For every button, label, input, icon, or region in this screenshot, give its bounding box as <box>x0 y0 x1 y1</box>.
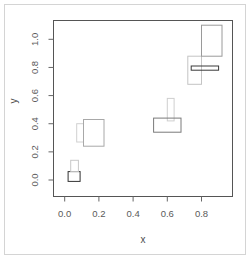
data-rect-0 <box>68 172 80 182</box>
y-tick-label: 0.8 <box>29 61 40 74</box>
y-tick-label: 0.2 <box>29 145 40 158</box>
x-tick-label: 0.0 <box>58 208 71 219</box>
y-axis-label: y <box>8 99 19 104</box>
data-rect-8 <box>202 25 223 56</box>
x-tick-label: 0.4 <box>126 208 139 219</box>
y-tick-label: 1.0 <box>29 33 40 46</box>
rect-plot: 0.00.20.40.60.8 0.00.20.40.60.81.0 x y <box>0 0 250 257</box>
data-rectangles <box>68 25 222 181</box>
y-axis: 0.00.20.40.60.81.0 <box>29 33 54 187</box>
x-tick-label: 0.8 <box>195 208 208 219</box>
y-tick-label: 0.6 <box>29 89 40 102</box>
x-tick-label: 0.6 <box>161 208 174 219</box>
x-axis: 0.00.20.40.60.8 <box>58 197 208 219</box>
data-rect-4 <box>167 98 174 121</box>
data-rect-1 <box>71 160 79 171</box>
x-axis-label: x <box>141 234 146 245</box>
data-rect-3 <box>84 120 105 147</box>
data-rect-7 <box>191 66 218 70</box>
data-rect-2 <box>77 124 84 142</box>
plot-area-border <box>54 21 233 197</box>
x-tick-label: 0.2 <box>92 208 105 219</box>
y-tick-label: 0.4 <box>29 117 40 130</box>
y-tick-label: 0.0 <box>29 173 40 186</box>
